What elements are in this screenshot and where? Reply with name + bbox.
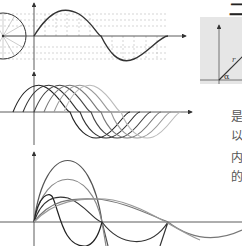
sine-wave-figure: r α bbox=[0, 0, 242, 246]
side-text-line-2: 以 bbox=[231, 130, 242, 142]
vector-angle-inset: r α bbox=[200, 17, 242, 84]
section-header-glyph: 二 bbox=[229, 0, 242, 20]
side-text-line-3: 内 bbox=[231, 152, 242, 164]
phase-shifted-sines-diagram bbox=[0, 72, 192, 145]
angle-label: α bbox=[224, 72, 230, 81]
side-text-line-1: 是 bbox=[231, 111, 242, 123]
harmonics-diagram bbox=[0, 152, 242, 246]
unit-circle-projection-diagram bbox=[0, 3, 186, 70]
side-text-line-4: 的 bbox=[231, 171, 242, 183]
